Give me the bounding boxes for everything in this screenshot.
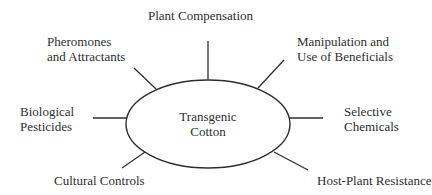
connector-pheromones xyxy=(134,68,156,89)
node-label-line: Host-Plant Resistance xyxy=(317,173,431,188)
connector-cultural-controls xyxy=(122,152,145,168)
node-plant-compensation: Plant Compensation xyxy=(148,8,253,23)
node-pheromones: Pheromones and Attractants xyxy=(47,34,125,64)
node-host-plant-resistance: Host-Plant Resistance xyxy=(317,173,431,188)
node-label-line: Plant Compensation xyxy=(148,8,253,23)
node-selective-chemicals: Selective Chemicals xyxy=(344,104,399,134)
node-label-line: Manipulation and xyxy=(297,34,393,49)
node-label-line: Cultural Controls xyxy=(54,173,145,188)
connector-manipulation xyxy=(258,60,284,88)
node-biological-pesticides: Biological Pesticides xyxy=(20,104,74,134)
node-label-line: Biological xyxy=(20,104,74,119)
diagram-graphics xyxy=(0,0,432,195)
connector-host-plant-resistance xyxy=(274,152,308,170)
center-label-line-2: Cotton xyxy=(158,124,258,139)
node-label-line: Selective xyxy=(344,104,399,119)
node-label-line: and Attractants xyxy=(47,49,125,64)
center-label-line-1: Transgenic xyxy=(158,109,258,124)
node-label-line: Use of Beneficials xyxy=(297,49,393,64)
node-label-line: Pheromones xyxy=(47,34,125,49)
node-label-line: Pesticides xyxy=(20,119,74,134)
center-label: Transgenic Cotton xyxy=(158,109,258,139)
node-manipulation: Manipulation and Use of Beneficials xyxy=(297,34,393,64)
node-label-line: Chemicals xyxy=(344,119,399,134)
transgenic-cotton-diagram: Transgenic Cotton Plant Compensation Phe… xyxy=(0,0,432,195)
node-cultural-controls: Cultural Controls xyxy=(54,173,145,188)
